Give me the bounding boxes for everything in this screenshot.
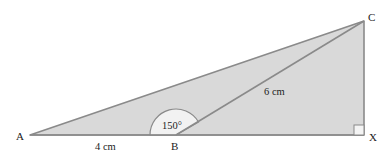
- length-label-ab: 4 cm: [95, 141, 116, 152]
- point-label-b: B: [171, 140, 178, 152]
- point-label-c: C: [368, 11, 375, 23]
- point-label-a: A: [16, 130, 24, 142]
- angle-label-abc: 150°: [162, 120, 182, 131]
- length-label-bc: 6 cm: [264, 86, 285, 97]
- point-label-x: X: [369, 131, 377, 143]
- triangle-diagram: A B C X 4 cm 6 cm 150°: [0, 0, 392, 157]
- right-angle-marker: [354, 125, 364, 135]
- triangle-acx-fill: [30, 21, 364, 135]
